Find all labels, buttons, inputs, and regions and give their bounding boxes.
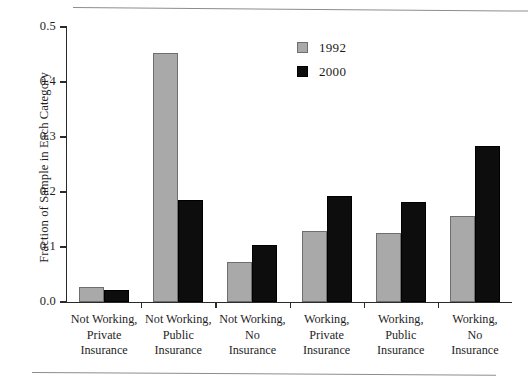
category-label-1: Not Working,PrivateInsurance xyxy=(61,312,147,359)
x-tick-mark xyxy=(215,302,216,308)
category-label-line: Not Working, xyxy=(135,312,221,328)
legend-label-1992: 1992 xyxy=(319,40,346,56)
x-tick-mark xyxy=(364,302,365,308)
category-label-line: Not Working, xyxy=(209,312,295,328)
category-label-line: Insurance xyxy=(284,343,370,359)
category-label-5: Working,PublicInsurance xyxy=(358,312,444,359)
bar-1992-group-1 xyxy=(79,287,104,302)
bar-1992-group-2 xyxy=(153,53,178,302)
category-label-4: Working,PrivateInsurance xyxy=(284,312,370,359)
bar-1992-group-6 xyxy=(450,216,475,302)
bar-2000-group-3 xyxy=(252,245,277,302)
legend-label-2000: 2000 xyxy=(319,64,346,80)
category-label-3: Not Working,NoInsurance xyxy=(209,312,295,359)
gray-swatch-icon xyxy=(297,42,308,53)
category-label-line: Working, xyxy=(284,312,370,328)
bar-2000-group-1 xyxy=(104,290,129,302)
category-label-line: No xyxy=(209,328,295,344)
category-label-line: Insurance xyxy=(358,343,444,359)
category-label-line: Public xyxy=(135,328,221,344)
category-label-line: Insurance xyxy=(432,343,518,359)
category-label-line: Insurance xyxy=(209,343,295,359)
x-tick-mark xyxy=(141,302,142,308)
bar-1992-group-4 xyxy=(302,231,327,302)
category-label-2: Not Working,PublicInsurance xyxy=(135,312,221,359)
x-tick-mark xyxy=(438,302,439,308)
legend: 1992 2000 xyxy=(297,38,346,86)
black-swatch-icon xyxy=(297,66,308,77)
x-tick-mark xyxy=(290,302,291,308)
category-label-line: No xyxy=(432,328,518,344)
bar-chart-figure: Fraction of Sample in Each Category 0.00… xyxy=(0,0,530,389)
category-label-line: Private xyxy=(61,328,147,344)
bar-2000-group-6 xyxy=(475,146,500,302)
category-label-line: Not Working, xyxy=(61,312,147,328)
bar-2000-group-5 xyxy=(401,202,426,302)
category-label-6: Working,NoInsurance xyxy=(432,312,518,359)
category-label-line: Public xyxy=(358,328,444,344)
bar-1992-group-3 xyxy=(227,262,252,302)
bar-2000-group-2 xyxy=(178,200,203,302)
bottom-horizontal-rule xyxy=(32,372,496,376)
category-label-line: Working, xyxy=(358,312,444,328)
category-label-line: Private xyxy=(284,328,370,344)
category-label-line: Working, xyxy=(432,312,518,328)
bars-container xyxy=(0,0,530,302)
bar-2000-group-4 xyxy=(327,196,352,302)
legend-item-2000: 2000 xyxy=(297,62,346,81)
category-label-line: Insurance xyxy=(61,343,147,359)
bar-1992-group-5 xyxy=(376,233,401,302)
legend-item-1992: 1992 xyxy=(297,38,346,57)
category-label-line: Insurance xyxy=(135,343,221,359)
